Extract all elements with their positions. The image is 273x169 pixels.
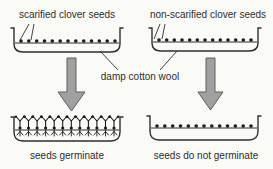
seed-dot (210, 124, 214, 128)
seed-dot (226, 124, 230, 128)
seedling-row (15, 116, 120, 137)
seed-dot (180, 38, 184, 42)
seed-dot (242, 38, 246, 42)
seed-dot (98, 39, 102, 43)
seedling (66, 116, 77, 137)
seed-dot (51, 39, 55, 43)
seed-dot (249, 124, 253, 128)
seed-dot (196, 38, 200, 42)
germination-experiment-diagram: scarified clover seeds non-scarified clo… (0, 0, 273, 169)
label-seeds-do-not-germinate: seeds do not germinate (146, 150, 266, 161)
seedling (32, 116, 43, 137)
seed-dot (163, 124, 167, 128)
seed-row (157, 38, 253, 42)
top-right-dish (149, 28, 261, 51)
seedling (57, 116, 68, 137)
seed-dot (219, 38, 223, 42)
seed-dot (179, 124, 183, 128)
seedling (83, 116, 94, 137)
seed-dot (241, 124, 245, 128)
seed-dot (105, 39, 109, 43)
seedling (15, 116, 26, 137)
label-damp-cotton-wool: damp cotton wool (88, 71, 192, 82)
top-left-dish (11, 28, 123, 52)
seed-dot (90, 39, 94, 43)
seed-dot (218, 124, 222, 128)
seed-dot (187, 124, 191, 128)
seed-dot (82, 39, 86, 43)
seed-dot (27, 39, 31, 43)
seed-dot (188, 38, 192, 42)
seed-dot (74, 39, 78, 43)
bottom-right-dish (147, 116, 261, 140)
cotton-wool-pointer-left (100, 51, 118, 70)
seed-dot (211, 38, 215, 42)
arrow-down-right (198, 58, 223, 110)
seed-dot (35, 39, 39, 43)
label-seeds-germinate: seeds germinate (8, 150, 126, 161)
seed-row (155, 124, 253, 128)
seed-dot (173, 38, 177, 42)
seedling (100, 116, 111, 137)
seedling (40, 116, 51, 137)
seed-dot (203, 38, 207, 42)
seed-dot (249, 38, 253, 42)
seed-dot (58, 39, 62, 43)
seed-dot (194, 124, 198, 128)
cotton-wool-pointer-right (160, 51, 177, 70)
seedling (23, 116, 34, 137)
seed-dot (202, 124, 206, 128)
diagram-graphics (0, 0, 273, 169)
bottom-left-dish (11, 116, 123, 142)
seedling (109, 116, 120, 137)
seed-dot (113, 39, 117, 43)
arrow-down-left (58, 58, 85, 111)
scarified-pointer-1 (20, 24, 29, 40)
seedling (91, 116, 102, 137)
seed-dot (157, 38, 161, 42)
seed-dot (155, 124, 159, 128)
label-non-scarified-clover-seeds: non-scarified clover seeds (146, 9, 270, 20)
label-scarified-clover-seeds: scarified clover seeds (8, 9, 126, 20)
seedling (74, 116, 85, 137)
seed-dot (234, 38, 238, 42)
seedling (49, 116, 60, 137)
scarified-pointer-2 (31, 24, 34, 40)
seed-row (19, 39, 117, 43)
seed-dot (43, 39, 47, 43)
seed-dot (165, 38, 169, 42)
seed-dot (66, 39, 70, 43)
non-scarified-pointer-1 (154, 24, 160, 39)
seed-dot (171, 124, 175, 128)
seed-dot (234, 124, 238, 128)
seed-dot (226, 38, 230, 42)
non-scarified-pointer-2 (162, 24, 165, 39)
